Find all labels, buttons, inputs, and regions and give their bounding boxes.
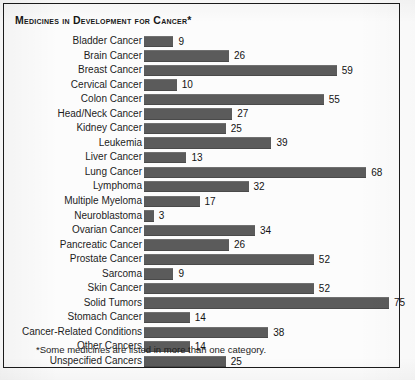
bar bbox=[144, 152, 186, 163]
bar-row: Lung Cancer68 bbox=[4, 165, 398, 180]
bar-category-label: Brain Cancer bbox=[0, 49, 142, 64]
bar-track: 10 bbox=[144, 79, 396, 90]
bar bbox=[144, 79, 177, 90]
bar-value-label: 26 bbox=[234, 239, 245, 250]
bar-track: 32 bbox=[144, 181, 396, 192]
bar-row: Prostate Cancer52 bbox=[4, 252, 398, 267]
bar-value-label: 55 bbox=[329, 94, 340, 105]
bar-category-label: Solid Tumors bbox=[0, 296, 142, 311]
bar-value-label: 10 bbox=[182, 79, 193, 90]
bar-row: Neuroblastoma3 bbox=[4, 209, 398, 224]
bar-track: 55 bbox=[144, 94, 396, 105]
bar-track: 26 bbox=[144, 50, 396, 61]
bar-category-label: Bladder Cancer bbox=[0, 34, 142, 49]
page-title: Medicines in Development for Cancer* bbox=[15, 14, 192, 26]
bar bbox=[144, 65, 337, 76]
bar-category-label: Cancer-Related Conditions bbox=[0, 325, 142, 340]
bar-chart-plot-area: Bladder Cancer9Brain Cancer26Breast Canc… bbox=[4, 34, 398, 334]
bar-row: Head/Neck Cancer27 bbox=[4, 107, 398, 122]
bar bbox=[144, 312, 190, 323]
bar-track: 39 bbox=[144, 137, 396, 148]
chart-page: Medicines in Development for Cancer* Bla… bbox=[0, 0, 415, 380]
bar bbox=[144, 50, 229, 61]
bar-category-label: Neuroblastoma bbox=[0, 209, 142, 224]
bar-row: Skin Cancer52 bbox=[4, 281, 398, 296]
bar-track: 68 bbox=[144, 167, 396, 178]
bar-track: 52 bbox=[144, 283, 396, 294]
bar-value-label: 27 bbox=[237, 108, 248, 119]
bar-track: 75 bbox=[144, 297, 396, 308]
bar-row: Breast Cancer59 bbox=[4, 63, 398, 78]
bar-value-label: 32 bbox=[254, 181, 265, 192]
bar-category-label: Kidney Cancer bbox=[0, 121, 142, 136]
bar bbox=[144, 225, 255, 236]
chart-footnote: *Some medicines are listed in more than … bbox=[36, 344, 266, 355]
bar-row: Unspecified Cancers25 bbox=[4, 354, 398, 369]
bar-row: Multiple Myeloma17 bbox=[4, 194, 398, 209]
bar bbox=[144, 254, 314, 265]
bar bbox=[144, 123, 226, 134]
bar-track: 3 bbox=[144, 210, 396, 221]
bar-category-label: Lung Cancer bbox=[0, 165, 142, 180]
bar-row: Pancreatic Cancer26 bbox=[4, 238, 398, 253]
bar-category-label: Liver Cancer bbox=[0, 150, 142, 165]
bar-track: 9 bbox=[144, 268, 396, 279]
bar-row: Brain Cancer26 bbox=[4, 49, 398, 64]
bar-row: Cancer-Related Conditions38 bbox=[4, 325, 398, 340]
bar-row: Lymphoma32 bbox=[4, 179, 398, 194]
bar-value-label: 9 bbox=[178, 268, 184, 279]
bar bbox=[144, 181, 249, 192]
bar-value-label: 25 bbox=[231, 123, 242, 134]
bar-value-label: 59 bbox=[342, 65, 353, 76]
bar-row: Kidney Cancer25 bbox=[4, 121, 398, 136]
bar-category-label: Unspecified Cancers bbox=[0, 354, 142, 369]
bar-track: 9 bbox=[144, 36, 396, 47]
bar-row: Liver Cancer13 bbox=[4, 150, 398, 165]
bar-row: Bladder Cancer9 bbox=[4, 34, 398, 49]
bar-category-label: Pancreatic Cancer bbox=[0, 238, 142, 253]
bar-track: 34 bbox=[144, 225, 396, 236]
bar-value-label: 9 bbox=[178, 36, 184, 47]
bar bbox=[144, 137, 271, 148]
bar-track: 26 bbox=[144, 239, 396, 250]
bar bbox=[144, 196, 200, 207]
bar bbox=[144, 94, 324, 105]
bar-value-label: 13 bbox=[191, 152, 202, 163]
bar-row: Leukemia39 bbox=[4, 136, 398, 151]
bar-value-label: 3 bbox=[159, 210, 165, 221]
bar-value-label: 25 bbox=[231, 356, 242, 367]
bar bbox=[144, 283, 314, 294]
bar-value-label: 39 bbox=[276, 137, 287, 148]
bar-row: Ovarian Cancer34 bbox=[4, 223, 398, 238]
bar-value-label: 68 bbox=[371, 167, 382, 178]
bar bbox=[144, 239, 229, 250]
bar-value-label: 38 bbox=[273, 327, 284, 338]
bar-category-label: Lymphoma bbox=[0, 179, 142, 194]
bar-track: 13 bbox=[144, 152, 396, 163]
bar-value-label: 75 bbox=[394, 297, 405, 308]
bar bbox=[144, 108, 232, 119]
bar bbox=[144, 327, 268, 338]
bar-track: 17 bbox=[144, 196, 396, 207]
bar-value-label: 14 bbox=[195, 312, 206, 323]
bar-value-label: 17 bbox=[205, 196, 216, 207]
bar-row: Colon Cancer55 bbox=[4, 92, 398, 107]
bar-value-label: 52 bbox=[319, 283, 330, 294]
bar-category-label: Prostate Cancer bbox=[0, 252, 142, 267]
bar-category-label: Colon Cancer bbox=[0, 92, 142, 107]
bar-category-label: Leukemia bbox=[0, 136, 142, 151]
bar bbox=[144, 167, 366, 178]
bar-category-label: Ovarian Cancer bbox=[0, 223, 142, 238]
bar-row: Sarcoma9 bbox=[4, 267, 398, 282]
bar-track: 38 bbox=[144, 327, 396, 338]
bar bbox=[144, 356, 226, 367]
bar-category-label: Skin Cancer bbox=[0, 281, 142, 296]
bar bbox=[144, 210, 154, 221]
bar-track: 25 bbox=[144, 123, 396, 134]
bar-value-label: 26 bbox=[234, 50, 245, 61]
bar-row: Cervical Cancer10 bbox=[4, 78, 398, 93]
bar-row: Solid Tumors75 bbox=[4, 296, 398, 311]
bar-value-label: 52 bbox=[319, 254, 330, 265]
chart-frame: Medicines in Development for Cancer* Bla… bbox=[3, 3, 400, 368]
bar-track: 25 bbox=[144, 356, 396, 367]
